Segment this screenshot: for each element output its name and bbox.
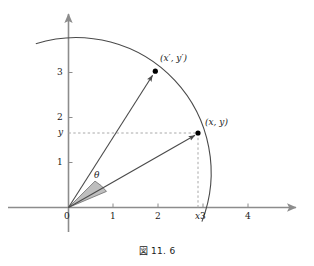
x-tick-label-1: 1 [110,212,116,221]
angle-wedge-theta [69,181,107,207]
y-tick-label-y: y [58,128,63,137]
vector-to-rotated-point [69,75,153,207]
coordinate-plot [0,0,314,266]
x-tick-label-x: x [195,212,200,221]
figure-caption: 図 11. 6 [0,244,314,257]
y-tick-label-1: 1 [57,158,63,167]
y-axis [69,14,73,232]
y-tick-label-3: 3 [57,68,63,77]
x-tick-label-2: 2 [155,212,161,221]
point-marker-rotated [153,69,158,74]
point-label-original: (x, y) [205,118,228,127]
angle-label-theta: θ [94,171,99,180]
point-label-rotated: (x′, y′) [160,54,187,63]
x-tick-label-3: 3 [200,212,206,221]
vector-to-original-point [69,135,196,207]
figure-container: 0 1 2 3 4 x 1 2 3 y (x′, y′) (x, y) θ 図 … [0,0,314,266]
x-tick-label-4: 4 [245,212,251,221]
x-axis [8,204,296,208]
point-marker-original [195,130,200,135]
y-tick-label-2: 2 [57,113,63,122]
x-tick-label-0: 0 [64,212,70,221]
